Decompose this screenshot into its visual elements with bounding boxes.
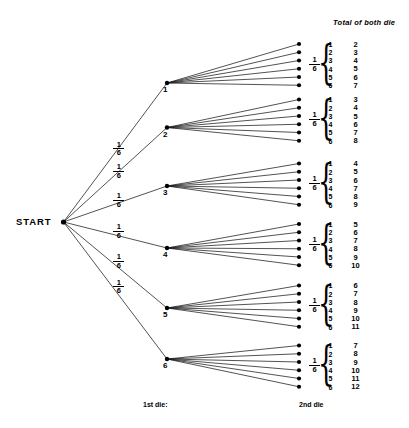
outcome-dot-3-5 bbox=[297, 194, 301, 198]
outcome-dot-3-6 bbox=[297, 203, 301, 207]
total-value-1-4: 5 bbox=[350, 65, 361, 73]
first-die-node-label-3: 3 bbox=[163, 189, 167, 197]
outcome-dot-2-3 bbox=[297, 114, 301, 118]
fraction-denominator: 6 bbox=[309, 245, 320, 253]
second-die-edge-3-2 bbox=[167, 172, 299, 186]
total-value-3-3: 6 bbox=[350, 177, 361, 185]
first-die-node-dots bbox=[165, 81, 169, 361]
second-die-probability-1: 16 bbox=[309, 56, 320, 73]
start-node-dot bbox=[61, 219, 66, 224]
fraction-denominator: 6 bbox=[113, 287, 124, 295]
outcome-dot-2-2 bbox=[297, 106, 301, 110]
total-value-1-6: 7 bbox=[350, 82, 361, 90]
outcome-dot-5-2 bbox=[297, 292, 301, 296]
outcome-dot-1-6 bbox=[297, 83, 301, 87]
second-die-edge-6-1 bbox=[167, 346, 299, 360]
fraction-denominator: 6 bbox=[309, 366, 320, 374]
total-value-2-3: 5 bbox=[350, 113, 361, 121]
outcome-node-dots bbox=[297, 42, 301, 389]
first-die-probability-6: 16 bbox=[113, 279, 124, 296]
outcome-dot-6-5 bbox=[297, 376, 301, 380]
total-value-3-2: 5 bbox=[350, 168, 361, 176]
fraction-denominator: 6 bbox=[113, 149, 124, 157]
second-die-edge-5-6 bbox=[167, 308, 299, 327]
total-value-5-3: 8 bbox=[350, 299, 361, 307]
outcome-brace-3: { bbox=[318, 158, 334, 204]
totals-column-title: Total of both die bbox=[333, 19, 395, 27]
outcome-dot-4-1 bbox=[297, 222, 301, 226]
outcome-dot-3-4 bbox=[297, 186, 301, 190]
first-die-node-label-6: 6 bbox=[163, 362, 167, 370]
outcome-dot-1-1 bbox=[297, 42, 301, 46]
second-die-edge-6-6 bbox=[167, 359, 299, 387]
fraction-denominator: 6 bbox=[113, 232, 124, 240]
first-die-axis-label: 1st die: bbox=[143, 401, 168, 408]
first-die-probability-3: 16 bbox=[113, 192, 124, 209]
outcome-dot-5-5 bbox=[297, 316, 301, 320]
second-die-probability-2: 16 bbox=[309, 111, 320, 128]
outcome-dot-5-1 bbox=[297, 283, 301, 287]
second-die-edge-3-6 bbox=[167, 186, 299, 205]
outcome-dot-6-3 bbox=[297, 360, 301, 364]
outcome-dot-5-3 bbox=[297, 300, 301, 304]
outcome-brace-1: { bbox=[318, 39, 334, 85]
second-die-probability-5: 16 bbox=[309, 297, 320, 314]
second-die-edge-2-5 bbox=[167, 128, 299, 133]
fraction-denominator: 6 bbox=[113, 262, 124, 270]
second-die-edge-5-2 bbox=[167, 294, 299, 308]
first-die-probability-1: 16 bbox=[113, 141, 124, 158]
first-die-node-label-2: 2 bbox=[163, 131, 167, 139]
fraction-denominator: 6 bbox=[309, 306, 320, 314]
total-value-4-4: 8 bbox=[350, 245, 361, 253]
first-die-probability-2: 16 bbox=[113, 163, 124, 180]
outcome-dot-6-1 bbox=[297, 343, 301, 347]
probability-tree-diagram: START Total of both die 1st die: 2nd die… bbox=[0, 0, 409, 428]
first-die-probability-4: 16 bbox=[113, 223, 124, 240]
outcome-dot-1-2 bbox=[297, 50, 301, 54]
outcome-dot-1-5 bbox=[297, 75, 301, 79]
tree-edges-canvas bbox=[0, 0, 409, 428]
outcome-dot-4-5 bbox=[297, 255, 301, 259]
outcome-dot-3-1 bbox=[297, 161, 301, 165]
second-die-branch-edges bbox=[167, 44, 299, 387]
total-value-1-5: 6 bbox=[350, 74, 361, 82]
outcome-dot-2-4 bbox=[297, 122, 301, 126]
total-value-2-6: 8 bbox=[350, 137, 361, 145]
fraction-denominator: 6 bbox=[309, 65, 320, 73]
total-value-5-2: 7 bbox=[350, 290, 361, 298]
second-die-edge-2-6 bbox=[167, 128, 299, 141]
outcome-dot-1-3 bbox=[297, 58, 301, 62]
second-die-edge-6-2 bbox=[167, 354, 299, 359]
total-value-2-2: 4 bbox=[350, 104, 361, 112]
outcome-dot-4-4 bbox=[297, 247, 301, 251]
second-die-probability-4: 16 bbox=[309, 236, 320, 253]
first-die-node-label-1: 1 bbox=[163, 86, 167, 94]
first-die-node-label-4: 4 bbox=[163, 251, 167, 259]
second-die-edge-1-2 bbox=[167, 52, 299, 83]
outcome-brace-6: { bbox=[318, 340, 334, 386]
outcome-brace-4: { bbox=[318, 219, 334, 265]
outcome-brace-5: { bbox=[318, 280, 334, 326]
outcome-dot-2-5 bbox=[297, 130, 301, 134]
outcome-dot-5-4 bbox=[297, 308, 301, 312]
outcome-dot-2-6 bbox=[297, 139, 301, 143]
first-die-probability-5: 16 bbox=[113, 253, 124, 270]
outcome-dot-5-6 bbox=[297, 325, 301, 329]
outcome-brace-2: { bbox=[318, 94, 334, 140]
second-die-probability-3: 16 bbox=[309, 175, 320, 192]
second-die-edge-1-4 bbox=[167, 69, 299, 83]
second-die-probability-6: 16 bbox=[309, 357, 320, 374]
second-die-edge-4-6 bbox=[167, 248, 299, 265]
outcome-dot-3-2 bbox=[297, 170, 301, 174]
fraction-denominator: 6 bbox=[113, 201, 124, 209]
total-value-5-6: 11 bbox=[350, 323, 361, 331]
fraction-denominator: 6 bbox=[309, 120, 320, 128]
second-die-edge-2-1 bbox=[167, 100, 299, 128]
first-die-node-label-5: 5 bbox=[163, 311, 167, 319]
outcome-dot-1-4 bbox=[297, 67, 301, 71]
fraction-denominator: 6 bbox=[113, 172, 124, 180]
total-value-4-6: 10 bbox=[350, 262, 361, 270]
total-value-4-5: 9 bbox=[350, 254, 361, 262]
second-die-axis-label: 2nd die bbox=[299, 401, 324, 408]
total-value-1-1: 2 bbox=[350, 41, 361, 49]
